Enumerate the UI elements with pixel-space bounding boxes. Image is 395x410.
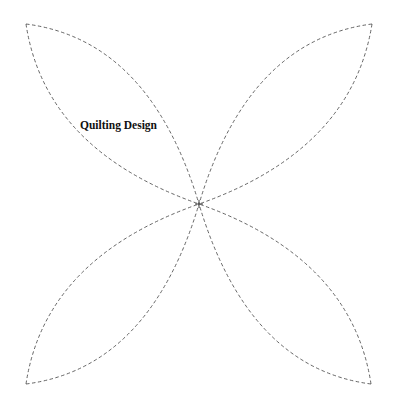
- quilting-design-canvas: [0, 0, 395, 410]
- top-left-petal: [26, 24, 199, 204]
- design-title: Quilting Design: [80, 119, 157, 131]
- bottom-left-petal: [26, 204, 199, 384]
- bottom-right-petal: [199, 204, 371, 384]
- top-right-petal: [199, 24, 372, 204]
- center-mark: [195, 200, 203, 208]
